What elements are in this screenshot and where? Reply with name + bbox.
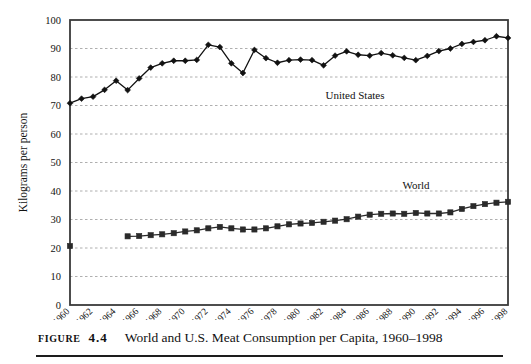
data-point-marker [263,226,268,231]
data-point-marker [252,227,257,232]
chart-plot-area: 0102030405060708090100 19601962196419661… [0,0,531,320]
data-point-marker [206,226,211,231]
data-point-marker [378,50,384,56]
x-tick-label-group: 1980 [281,306,302,320]
x-tick-label: 1972 [189,306,210,320]
x-tick-label: 1994 [443,306,464,320]
data-point-marker [447,46,453,52]
x-tick-label: 1982 [304,306,325,320]
data-point-marker [286,57,292,63]
data-point-marker [344,48,350,54]
x-tick-label-group: 1964 [97,306,118,320]
data-point-marker [448,210,453,215]
x-tick-label: 1990 [397,306,418,320]
data-point-marker [159,60,165,66]
x-tick-label-group: 1974 [212,306,233,320]
x-tick-label: 1964 [97,306,118,320]
data-point-marker [505,35,511,41]
data-point-marker [298,221,303,226]
data-point-marker [67,243,72,248]
x-tick-label-group: 1990 [397,306,418,320]
data-point-marker [425,211,430,216]
data-point-marker [148,233,153,238]
data-point-marker [275,60,281,66]
data-point-marker [171,58,177,64]
data-point-marker [413,210,418,215]
x-tick-label: 1978 [258,306,279,320]
x-tick-label-group: 1998 [489,306,510,320]
data-point-marker [125,234,130,239]
y-tick-label: 50 [51,157,62,168]
y-tick-label: 100 [45,15,61,26]
caption-number: 4.4 [89,330,108,346]
data-point-marker [183,229,188,234]
y-tick-label: 20 [51,243,62,254]
x-tick-label: 1996 [466,306,487,320]
data-point-marker [321,219,326,224]
x-tick-label: 1980 [281,306,302,320]
data-point-marker [137,233,142,238]
data-point-marker [90,94,96,100]
data-point-marker [436,211,441,216]
x-tick-label-group: 1992 [420,306,441,320]
data-point-marker [356,214,361,219]
caption-row: FIGURE 4.4 World and U.S. Meat Consumpti… [38,330,442,346]
y-tick-label: 60 [51,129,62,140]
x-tick-label-group: 1986 [351,306,372,320]
caption-divider [36,355,503,357]
y-tick-label: 30 [51,214,62,225]
data-point-marker [367,53,373,59]
y-tick-label: 70 [51,100,62,111]
annotation-united-states: United States [326,89,385,101]
series-line [70,36,508,103]
x-tick-label: 1998 [489,306,510,320]
y-axis-title: Kilograms per person [17,112,30,212]
data-point-marker [459,206,464,211]
y-axis-label-text: Kilograms per person [17,112,30,212]
data-point-marker [333,218,338,223]
data-point-marker [390,52,396,58]
x-tick-label-group: 1966 [120,306,141,320]
x-tick-label: 1962 [74,306,95,320]
caption-kicker: FIGURE [38,333,81,344]
data-point-marker [160,232,165,237]
x-tick-label: 1976 [235,306,256,320]
x-tick-label-group: 1968 [143,306,164,320]
data-point-marker [401,55,407,61]
data-point-marker [494,200,499,205]
x-tick-label: 1960 [51,306,72,320]
data-point-marker [229,226,234,231]
data-point-marker [286,222,291,227]
data-point-marker [494,33,500,39]
data-point-marker [275,224,280,229]
data-point-marker [459,41,465,47]
data-point-marker [379,211,384,216]
x-tick-label: 1970 [166,306,187,320]
x-tick-label-group: 1970 [166,306,187,320]
y-axis-tick-labels: 0102030405060708090100 [45,15,61,311]
y-tick-label: 10 [51,271,62,282]
data-point-marker [298,57,304,63]
data-point-marker [505,199,510,204]
x-tick-label-group: 1996 [466,306,487,320]
caption-title: World and U.S. Meat Consumption per Capi… [125,330,443,346]
series-annotations-group: United StatesWorld [326,89,431,191]
series-world [67,199,510,248]
data-point-marker [436,48,442,54]
data-point-marker [471,39,477,45]
x-tick-label: 1988 [374,306,395,320]
data-point-marker [413,57,419,63]
figure-caption: FIGURE 4.4 World and U.S. Meat Consumpti… [0,326,531,364]
data-series-group [67,33,511,248]
line-chart: 0102030405060708090100 19601962196419661… [0,0,531,320]
data-point-marker [402,211,407,216]
x-tick-label-group: 1976 [235,306,256,320]
x-axis-tick-labels: 1960196219641966196819701972197419761978… [51,306,510,320]
series-united-states [67,33,511,106]
y-tick-label: 90 [51,43,62,54]
data-point-marker [390,211,395,216]
x-tick-label-group: 1960 [51,306,72,320]
figure-container: 0102030405060708090100 19601962196419661… [0,0,531,364]
x-tick-label-group: 1984 [328,306,349,320]
data-point-marker [309,220,314,225]
